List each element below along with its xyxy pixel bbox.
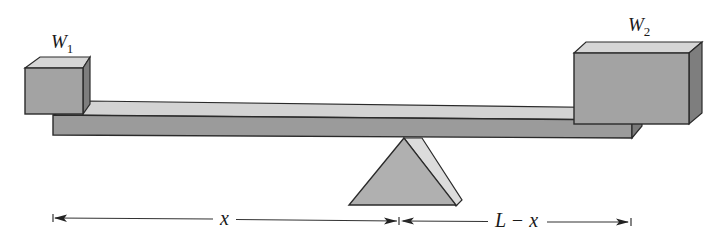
- weight-w2: W2: [574, 14, 702, 124]
- weight-w1: W1: [25, 31, 90, 114]
- beam: [53, 101, 642, 138]
- w1-label: W1: [51, 31, 73, 56]
- x-dim-line-left: [55, 218, 213, 219]
- x-label: x: [219, 207, 229, 229]
- w2-front-face: [574, 53, 689, 124]
- w2-subscript: 2: [644, 24, 651, 39]
- w1-subscript: 1: [67, 41, 74, 56]
- w2-top-face: [574, 42, 702, 53]
- l-minus-x-label: L − x: [494, 209, 538, 231]
- w2-label: W2: [628, 14, 650, 39]
- w1-top-face: [25, 57, 90, 68]
- dimension-lines: [53, 214, 631, 226]
- fulcrum: [349, 138, 462, 206]
- w2-side-face: [689, 42, 702, 124]
- x-dim-line-right: [236, 220, 397, 222]
- seesaw-diagram: W1 W2 x L − x: [0, 0, 704, 248]
- w1-front-face: [25, 68, 83, 114]
- lx-dim-line-left: [403, 221, 488, 222]
- w1-side-face: [83, 57, 90, 114]
